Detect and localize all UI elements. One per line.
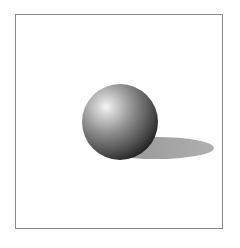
- sphere-scene: [0, 0, 240, 248]
- sphere: [82, 84, 158, 160]
